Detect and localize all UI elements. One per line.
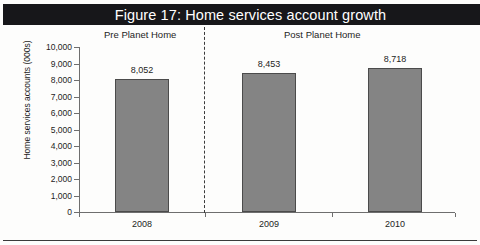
y-axis-tick-label: 2,000 <box>28 175 72 184</box>
y-axis-tick-label: 5,000 <box>28 125 72 134</box>
figure-title-band: Figure 17: Home services account growth <box>3 4 480 25</box>
chart-plot-area: Pre Planet Home Post Planet Home Home se… <box>0 25 480 237</box>
bar-value-label: 8,052 <box>112 65 172 75</box>
bar-2010[interactable] <box>368 68 422 212</box>
x-axis-tick-mark <box>332 213 333 217</box>
bar-value-label: 8,718 <box>365 54 425 64</box>
y-axis-tick-mark <box>74 64 79 65</box>
y-axis-tick-mark <box>74 130 79 131</box>
annotation-post-planet-home: Post Planet Home <box>284 29 361 40</box>
y-axis-tick-mark <box>74 47 79 48</box>
annotation-pre-planet-home: Pre Planet Home <box>104 29 176 40</box>
x-axis-category-label: 2008 <box>112 219 172 229</box>
y-axis-tick-label: 4,000 <box>28 142 72 151</box>
x-axis-tick-mark <box>205 213 206 217</box>
x-axis-category-label: 2009 <box>239 219 299 229</box>
y-axis-tick-mark <box>74 196 79 197</box>
y-axis-tick-mark <box>74 163 79 164</box>
bar-2009[interactable] <box>242 73 296 212</box>
footer-rule <box>3 240 477 241</box>
y-axis-tick-label: 3,000 <box>28 158 72 167</box>
segment-divider-line <box>204 27 205 213</box>
x-axis-line <box>76 212 455 213</box>
y-axis-line <box>79 47 80 213</box>
y-axis-tick-mark <box>74 113 79 114</box>
figure-title: Figure 17: Home services account growth <box>115 7 386 23</box>
y-axis-tick-label: 8,000 <box>28 76 72 85</box>
y-axis-tick-mark <box>74 146 79 147</box>
y-axis-tick-label: 10,000 <box>28 43 72 52</box>
x-axis-tick-mark <box>455 213 456 217</box>
y-axis-tick-label: 6,000 <box>28 109 72 118</box>
y-axis-tick-mark <box>74 80 79 81</box>
y-axis-tick-label: 7,000 <box>28 92 72 101</box>
y-axis-tick-mark <box>74 179 79 180</box>
y-axis-tick-mark <box>74 97 79 98</box>
y-axis-tick-label: 0 <box>28 208 72 217</box>
bar-2008[interactable] <box>115 79 169 212</box>
x-axis-tick-mark <box>79 213 80 217</box>
y-axis-tick-labels: 01,0002,0003,0004,0005,0006,0007,0008,00… <box>28 25 72 237</box>
y-axis-tick-label: 1,000 <box>28 191 72 200</box>
x-axis-category-label: 2010 <box>365 219 425 229</box>
y-axis-tick-label: 9,000 <box>28 59 72 68</box>
bar-value-label: 8,453 <box>239 59 299 69</box>
